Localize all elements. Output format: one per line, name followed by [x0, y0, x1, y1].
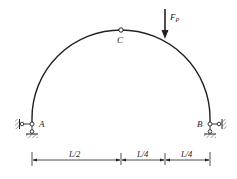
label-c: C — [117, 35, 124, 45]
load-arrow-icon — [162, 9, 169, 39]
support-b-icon — [204, 119, 227, 138]
label-b: B — [197, 119, 203, 129]
load-label: FP — [169, 12, 180, 23]
dim-label-2: L/4 — [136, 149, 149, 159]
hinge-c-icon — [119, 28, 123, 32]
support-a-icon — [15, 119, 38, 138]
label-a: A — [38, 119, 45, 129]
arch-diagram: C FP A B — [0, 0, 237, 179]
dim-label-3: L/4 — [180, 149, 193, 159]
dim-label-1: L/2 — [68, 149, 81, 159]
